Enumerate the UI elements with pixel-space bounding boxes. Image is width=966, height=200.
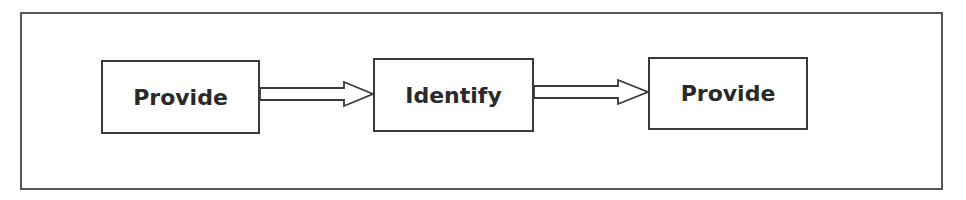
node-label: Provide bbox=[681, 81, 776, 106]
node-label: Provide bbox=[133, 85, 228, 110]
node-identify: Identify bbox=[373, 58, 534, 132]
node-provide-1: Provide bbox=[101, 60, 260, 134]
node-label: Identify bbox=[405, 83, 502, 108]
node-provide-2: Provide bbox=[648, 57, 808, 130]
